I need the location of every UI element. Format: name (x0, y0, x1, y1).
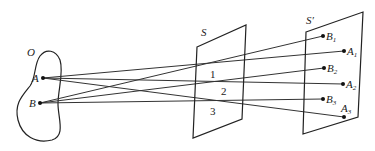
pinhole-projection-diagram: O A B S 1 2 3 S′ B1 A1 B2 A2 B3 A3 (0, 0, 375, 151)
region-3-label: 3 (210, 105, 216, 117)
image-b3-dot (321, 97, 325, 101)
screen-s-label: S (201, 26, 207, 38)
image-a1-label: A1 (346, 45, 357, 59)
image-a2-label: A2 (345, 78, 357, 92)
image-a1-dot (342, 49, 346, 53)
image-a3-dot (342, 115, 346, 119)
screen-s-prime-label: S′ (306, 14, 315, 26)
point-b-dot (38, 101, 42, 105)
image-b3-label: B3 (326, 93, 337, 107)
image-a3-label: A3 (340, 102, 352, 116)
region-2-label: 2 (221, 85, 227, 97)
image-a2-dot (341, 82, 345, 86)
point-a-label: A (31, 72, 39, 84)
object-blob (17, 51, 61, 141)
point-a-dot (41, 76, 45, 80)
image-b2-dot (322, 66, 326, 70)
rays-from-b (40, 36, 324, 103)
image-b1-label: B1 (326, 30, 336, 44)
image-b2-label: B2 (327, 62, 338, 76)
image-b1-dot (321, 34, 325, 38)
point-b-label: B (29, 97, 36, 109)
region-1-label: 1 (210, 68, 216, 80)
object-label: O (27, 46, 35, 58)
